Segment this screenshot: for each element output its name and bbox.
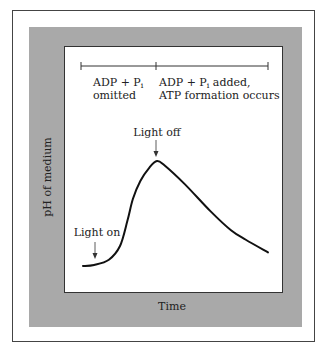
light-on-arrow xyxy=(93,242,98,259)
x-axis-label: Time xyxy=(158,300,186,313)
phase2-label-line1: ADP + Pi added, xyxy=(158,76,251,90)
phase1-label-line1: ADP + Pi xyxy=(92,76,144,90)
light-off-arrow xyxy=(154,140,159,157)
diagram-svg: ADP + Pi omitted ADP + Pi added, ATP for… xyxy=(0,0,323,349)
phase-timeline xyxy=(81,62,268,70)
y-axis-label: pH of medium xyxy=(41,137,54,217)
light-off-label: Light off xyxy=(133,126,181,139)
light-on-label: Light on xyxy=(74,226,121,239)
ph-curve xyxy=(83,161,268,266)
phase2-label-line2: ATP formation occurs xyxy=(158,89,280,102)
phase1-label-line2: omitted xyxy=(93,89,136,102)
